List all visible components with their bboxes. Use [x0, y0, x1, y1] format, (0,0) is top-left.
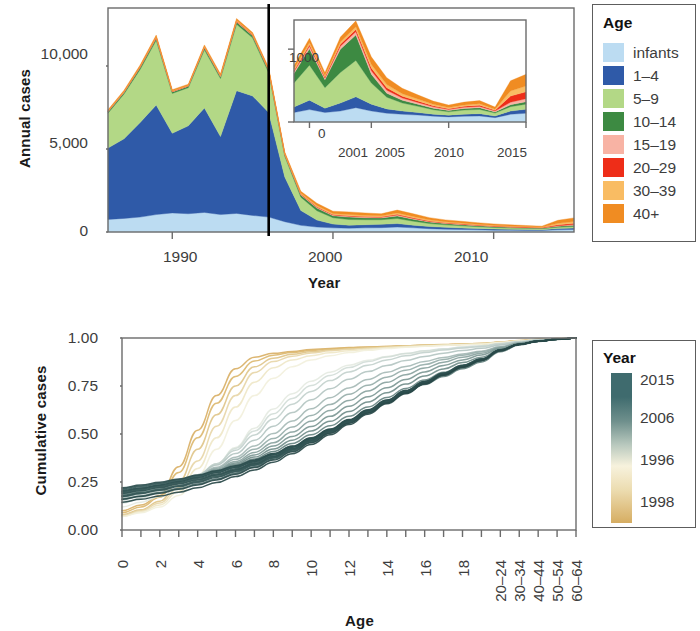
panel-b-line-1996	[122, 338, 576, 497]
panel-a-inset-xtick-2005: 2005	[375, 145, 405, 160]
panel-a-inset-xtick-2001: 2001	[338, 145, 368, 160]
legend-age-label: 40+	[633, 206, 659, 222]
legend-age-label: 1–4	[633, 68, 659, 84]
legend-age-swatch-icon	[603, 66, 624, 85]
legend-year-label-1996: 1996	[640, 451, 674, 469]
panel-b-xtick-label: 18	[454, 560, 471, 577]
panel-b-xtick-label: 12	[341, 560, 358, 577]
panel-b-xtick-label: 60–64	[568, 560, 585, 602]
legend-age-label: 30–39	[633, 183, 676, 199]
panel-b-xtick-label: 0	[114, 560, 131, 568]
legend-age-items: infants1–45–910–1415–1920–2930–3940+	[603, 41, 679, 225]
legend-age-row[interactable]: 15–19	[603, 133, 679, 156]
legend-age-label: 5–9	[633, 91, 659, 107]
panel-b-y-axis-title: Cumulative cases	[32, 351, 49, 511]
panel-a-x-axis-title: Year	[308, 274, 341, 291]
panel-b-line-2003	[122, 338, 576, 496]
legend-year: Year 2015 2006 1996 1998	[592, 340, 696, 528]
legend-age-swatch-icon	[603, 135, 624, 154]
legend-age-row[interactable]: infants	[603, 41, 679, 64]
panel-b-ytick-025: 0.25	[68, 473, 98, 491]
panel-b-xtick-label: 4	[189, 560, 206, 568]
panel-a-inset-xtick-2015: 2015	[497, 145, 527, 160]
panel-b-x-axis-title: Age	[345, 612, 374, 629]
panel-cumulative-cases: Cumulative cases 1.00 0.75 0.50 0.25 0.0…	[0, 320, 582, 631]
legend-year-title: Year	[603, 349, 636, 367]
legend-age-swatch-icon	[603, 158, 624, 177]
panel-b-xtick-label: 20–24	[492, 560, 509, 602]
legend-year-label-2006: 2006	[640, 409, 674, 427]
panel-b-xtick-label: 30–34	[511, 560, 528, 602]
panel-a-xtick-2000: 2000	[308, 248, 342, 266]
panel-a-ytick-10000: 10,000	[41, 45, 88, 63]
legend-age-swatch-icon	[603, 181, 624, 200]
panel-a-inset-ytick-0: 0	[318, 126, 326, 141]
panel-b-ytick-100: 1.00	[68, 329, 98, 347]
legend-age-label: 20–29	[633, 160, 676, 176]
legend-age-label: infants	[633, 45, 679, 61]
panel-a-inset-xtick-2010: 2010	[434, 145, 464, 160]
legend-age-label: 10–14	[633, 114, 676, 130]
panel-b-xtick-label: 2	[151, 560, 168, 568]
year-colorbar-gradient	[611, 373, 632, 523]
figure-root: Annual cases 10,000 5,000 0 1990 2000 20…	[0, 0, 700, 631]
panel-a-inset-ytick-1000: 1000	[289, 50, 319, 65]
legend-age-row[interactable]: 5–9	[603, 87, 679, 110]
legend-age-row[interactable]: 30–39	[603, 179, 679, 202]
panel-a-plot-area	[106, 2, 576, 247]
legend-year-label-2015: 2015	[640, 371, 674, 389]
legend-age-row[interactable]: 10–14	[603, 110, 679, 133]
panel-b-xtick-label: 50–54	[549, 560, 566, 602]
legend-age-swatch-icon	[603, 43, 624, 62]
panel-b-line-2012	[122, 338, 576, 491]
panel-b-xtick-label: 8	[265, 560, 282, 568]
panel-b-xtick-label: 16	[416, 560, 433, 577]
panel-annual-cases: Annual cases 10,000 5,000 0 1990 2000 20…	[0, 0, 582, 305]
panel-b-frame	[122, 338, 576, 530]
panel-b-line-2008	[122, 338, 576, 489]
panel-b-line-2005	[122, 338, 576, 490]
panel-b-line-1995	[122, 338, 576, 498]
panel-b-line-2013	[122, 338, 576, 488]
legend-age-swatch-icon	[603, 89, 624, 108]
panel-b-x-tick-labels: 02468101214161820–2430–3440–4450–5460–64	[0, 556, 582, 616]
legend-age-swatch-icon	[603, 112, 624, 131]
legend-age: Age infants1–45–910–1415–1920–2930–3940+	[592, 4, 696, 242]
panel-b-xtick-label: 40–44	[530, 560, 547, 602]
legend-age-row[interactable]: 40+	[603, 202, 679, 225]
panel-b-line-2010	[122, 338, 576, 496]
panel-a-xtick-1990: 1990	[163, 248, 197, 266]
legend-age-swatch-icon	[603, 204, 624, 223]
legend-age-title: Age	[603, 14, 632, 32]
panel-a-ytick-0: 0	[79, 222, 88, 240]
panel-b-xtick-label: 6	[227, 560, 244, 568]
panel-b-line-1997	[122, 338, 576, 496]
legend-age-row[interactable]: 20–29	[603, 156, 679, 179]
panel-b-xtick-label: 14	[378, 560, 395, 577]
panel-a-y-axis-title: Annual cases	[16, 54, 33, 184]
panel-a-ytick-5000: 5,000	[49, 134, 88, 152]
panel-b-ytick-075: 0.75	[68, 377, 98, 395]
legend-age-row[interactable]: 1–4	[603, 64, 679, 87]
panel-b-plot-area	[120, 334, 580, 559]
panel-b-ytick-050: 0.50	[68, 425, 98, 443]
legend-age-label: 15–19	[633, 137, 676, 153]
panel-b-ytick-000: 0.00	[68, 521, 98, 539]
panel-b-line-1988	[122, 338, 576, 515]
panel-a-xtick-2010: 2010	[454, 248, 488, 266]
legend-year-label-1998: 1998	[640, 493, 674, 511]
panel-b-xtick-label: 10	[303, 560, 320, 577]
